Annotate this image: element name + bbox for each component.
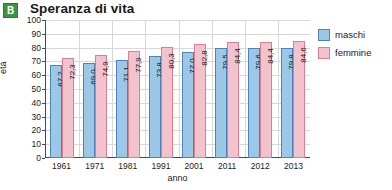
bar-value-label: 84,4 bbox=[233, 48, 243, 64]
bar-group: 79,584,4 bbox=[211, 20, 244, 158]
bar-maschi-2011: 79,5 bbox=[215, 48, 227, 158]
bar-value-label: 72,3 bbox=[68, 64, 78, 80]
page-title: Speranza di vita bbox=[30, 1, 134, 16]
bar-groups: 67,272,369,074,971,177,973,880,377,082,8… bbox=[45, 20, 310, 158]
y-axis-ticks: 1009080706050403020100 bbox=[0, 20, 45, 158]
legend-swatch-maschi bbox=[318, 29, 330, 41]
bar-group: 67,272,3 bbox=[45, 20, 78, 158]
y-tick-label: 90 bbox=[32, 30, 41, 38]
bar-femmine-2011: 84,4 bbox=[227, 42, 239, 158]
bar-maschi-2012: 79,6 bbox=[248, 48, 260, 158]
x-tick-label: 1971 bbox=[78, 158, 111, 172]
bar-group: 77,082,8 bbox=[178, 20, 211, 158]
legend-item-femmine[interactable]: femmine bbox=[318, 46, 392, 59]
bar-value-label: 84,4 bbox=[266, 48, 276, 64]
y-tick-label: 60 bbox=[32, 71, 41, 79]
bar-value-label: 77,9 bbox=[134, 57, 144, 73]
bar-femmine-1961: 72,3 bbox=[62, 58, 74, 158]
y-tick-label: 40 bbox=[32, 99, 41, 107]
y-tick-label: 50 bbox=[32, 85, 41, 93]
bar-group: 79,684,4 bbox=[244, 20, 277, 158]
bar-value-label: 82,8 bbox=[200, 50, 210, 66]
x-tick-label: 1961 bbox=[45, 158, 78, 172]
bar-femmine-1971: 74,9 bbox=[95, 55, 107, 158]
y-tick-label: 10 bbox=[32, 140, 41, 148]
legend-label: maschi bbox=[335, 29, 365, 40]
bar-group: 69,074,9 bbox=[78, 20, 111, 158]
chart-legend: maschifemmine bbox=[318, 28, 392, 64]
x-tick-label: 2012 bbox=[244, 158, 277, 172]
x-axis-title: anno bbox=[45, 173, 310, 183]
y-tick-label: 80 bbox=[32, 44, 41, 52]
x-axis-ticks: 19611971198119912001201120122013 bbox=[45, 158, 310, 172]
y-tick-label: 20 bbox=[32, 126, 41, 134]
bar-group: 71,177,9 bbox=[111, 20, 144, 158]
legend-item-maschi[interactable]: maschi bbox=[318, 28, 392, 41]
section-badge: B bbox=[3, 3, 18, 18]
bar-value-label: 80,3 bbox=[167, 53, 177, 69]
x-tick-label: 2013 bbox=[277, 158, 310, 172]
bar-value-label: 84,6 bbox=[299, 47, 309, 63]
legend-swatch-femmine bbox=[318, 47, 330, 59]
bar-maschi-1961: 67,2 bbox=[50, 65, 62, 158]
bar-group: 73,880,3 bbox=[144, 20, 177, 158]
x-tick-label: 2011 bbox=[211, 158, 244, 172]
legend-label: femmine bbox=[335, 47, 371, 58]
bar-femmine-1981: 77,9 bbox=[128, 51, 140, 159]
y-tick-label: 0 bbox=[36, 154, 41, 162]
bar-maschi-2001: 77,0 bbox=[182, 52, 194, 158]
bar-femmine-2001: 82,8 bbox=[194, 44, 206, 158]
bar-maschi-1981: 71,1 bbox=[116, 60, 128, 158]
y-tick-label: 100 bbox=[27, 16, 41, 24]
bar-group: 79,884,6 bbox=[277, 20, 310, 158]
bar-maschi-1971: 69,0 bbox=[83, 63, 95, 158]
bar-femmine-1991: 80,3 bbox=[161, 47, 173, 158]
bar-femmine-2013: 84,6 bbox=[293, 41, 305, 158]
chart-container: B Speranza di vita età 10090807060504030… bbox=[0, 0, 392, 190]
chart-header: B Speranza di vita bbox=[0, 0, 392, 22]
x-tick-label: 1991 bbox=[144, 158, 177, 172]
bar-maschi-1991: 73,8 bbox=[149, 56, 161, 158]
x-tick-label: 2001 bbox=[178, 158, 211, 172]
bar-femmine-2012: 84,4 bbox=[260, 42, 272, 158]
bar-maschi-2013: 79,8 bbox=[281, 48, 293, 158]
x-tick-label: 1981 bbox=[111, 158, 144, 172]
bar-value-label: 74,9 bbox=[101, 61, 111, 77]
y-tick-label: 30 bbox=[32, 113, 41, 121]
y-tick-label: 70 bbox=[32, 57, 41, 65]
